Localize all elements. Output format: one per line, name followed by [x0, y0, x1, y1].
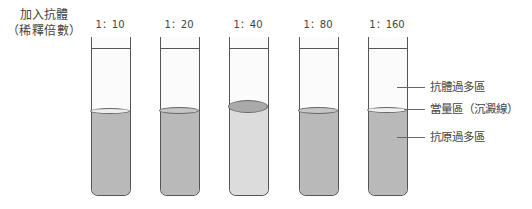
meniscus: [90, 108, 130, 114]
label-antibody-excess-zone: 抗體過多區: [430, 80, 485, 94]
tube-liquid: [300, 111, 338, 195]
tube-glass: [229, 37, 269, 196]
ratio-label-3: 1：40: [218, 16, 278, 31]
tube-liquid: [161, 111, 199, 195]
test-tube-3-equivalence: [229, 37, 269, 197]
tube-liquid: [230, 107, 268, 195]
meniscus: [298, 107, 338, 114]
header-antibody-added: 加入抗體: [10, 8, 78, 22]
test-tube-1: [91, 37, 131, 197]
tube-glass: [299, 37, 339, 196]
tube-glass: [160, 37, 200, 196]
leader-line-equivalence: [404, 109, 425, 110]
ratio-label-1: 1：10: [80, 16, 140, 31]
precipitation-band: [228, 100, 268, 113]
meniscus: [159, 107, 199, 114]
test-tube-2: [160, 37, 200, 197]
tube-glass: [91, 37, 131, 196]
leader-line-antibody-excess: [397, 87, 425, 88]
header-dilution-factor: （稀釋倍數）: [2, 24, 86, 38]
label-equivalence-zone: 當量區（沉澱線）: [430, 102, 518, 116]
test-tube-5: [368, 37, 408, 197]
tube-rim: [368, 48, 408, 49]
tube-liquid: [369, 110, 407, 195]
tube-glass: [368, 37, 408, 196]
label-antigen-excess-zone: 抗原過多區: [430, 130, 485, 144]
tube-rim: [299, 48, 339, 49]
ratio-label-4: 1：80: [288, 16, 348, 31]
antigen-excess-liquid: [92, 111, 130, 195]
ratio-label-2: 1：20: [149, 16, 209, 31]
ratio-label-5: 1：160: [357, 16, 417, 31]
meniscus: [367, 107, 407, 113]
test-tube-4: [299, 37, 339, 197]
tube-rim: [91, 48, 131, 49]
tube-rim: [160, 48, 200, 49]
tube-rim: [229, 48, 269, 49]
leader-line-antigen-excess: [397, 137, 425, 138]
